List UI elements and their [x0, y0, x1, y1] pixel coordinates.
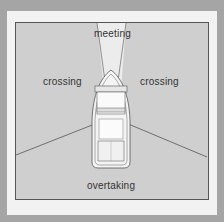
label-crossing-left: crossing	[43, 76, 82, 87]
outer-frame: meeting crossing crossing overtaking	[0, 0, 224, 222]
boat-icon	[92, 70, 130, 168]
label-overtaking: overtaking	[87, 180, 135, 191]
label-meeting: meeting	[94, 28, 131, 39]
label-crossing-right: crossing	[140, 76, 179, 87]
